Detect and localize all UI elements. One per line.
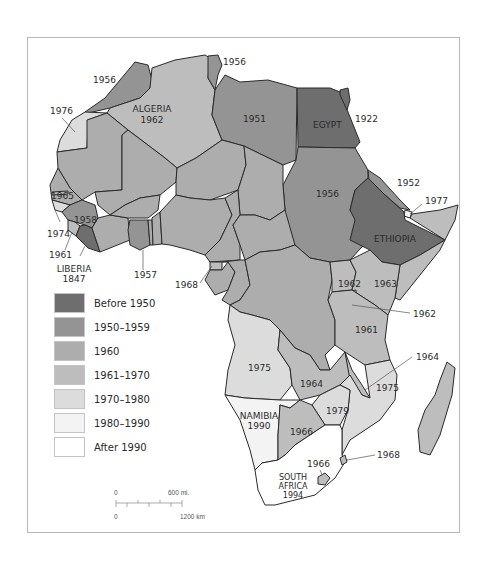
- legend-label: After 1990: [94, 442, 147, 453]
- label-zimbabwe: 1979: [326, 406, 349, 416]
- label-guinea: 1958: [74, 215, 97, 225]
- legend-label: 1950–1959: [94, 322, 150, 333]
- label-kenya: 1963: [374, 279, 397, 289]
- legend-item: After 1990: [54, 435, 155, 459]
- label-guinea-bissau: 1974: [47, 229, 70, 239]
- legend: Before 1950 1950–1959 1960 1961–1970 197…: [54, 291, 155, 459]
- label-mozambique: 1975: [376, 383, 399, 393]
- label-malawi: 1964: [416, 352, 439, 362]
- legend-label: 1961–1970: [94, 370, 150, 381]
- region-madagascar: [418, 362, 455, 455]
- label-uganda: 1962: [338, 279, 361, 289]
- label-south-africa-year: 1994: [283, 491, 303, 500]
- region-ghana: [128, 220, 150, 250]
- leader-liberia: [80, 246, 85, 256]
- label-egypt-name: EGYPT: [313, 120, 342, 130]
- legend-item: 1980–1990: [54, 411, 155, 435]
- label-eq-guinea: 1968: [175, 280, 198, 290]
- leader-swaziland: [347, 455, 375, 460]
- label-eritrea: 1952: [397, 178, 420, 188]
- legend-label: 1980–1990: [94, 418, 150, 429]
- label-sudan: 1956: [316, 189, 339, 199]
- legend-swatch: [54, 317, 85, 337]
- label-namibia-year: 1990: [248, 421, 271, 431]
- legend-swatch: [54, 293, 85, 313]
- scale-mi-zero: 0: [114, 489, 118, 496]
- legend-label: 1970–1980: [94, 394, 150, 405]
- label-morocco: 1956: [93, 75, 116, 85]
- legend-swatch: [54, 437, 85, 457]
- label-sierra-leone: 1961: [49, 250, 72, 260]
- label-egypt-year: 1922: [355, 114, 378, 124]
- label-libya: 1951: [243, 114, 266, 124]
- scale-km-zero: 0: [114, 513, 118, 520]
- legend-item: 1961–1970: [54, 363, 155, 387]
- region-egypt: [297, 88, 360, 148]
- label-algeria-name: ALGERIA: [133, 104, 173, 114]
- label-botswana: 1966: [290, 427, 313, 437]
- label-ghana: 1957: [134, 270, 157, 280]
- label-south-africa-name2: AFRICA: [278, 482, 308, 491]
- label-gambia: 1965: [51, 191, 74, 201]
- label-tunisia: 1956: [223, 57, 246, 67]
- legend-label: Before 1950: [94, 298, 155, 309]
- label-algeria-year: 1962: [141, 115, 164, 125]
- region-ivory-coast: [92, 215, 130, 252]
- legend-item: 1950–1959: [54, 315, 155, 339]
- label-tanzania: 1961: [355, 325, 378, 335]
- legend-swatch: [54, 341, 85, 361]
- label-lesotho: 1966: [307, 459, 330, 469]
- label-western-sahara: 1976: [50, 106, 73, 116]
- label-liberia-name: LIBERIA: [57, 264, 92, 274]
- label-namibia-name: NAMIBIA: [240, 411, 279, 421]
- label-angola: 1975: [248, 363, 271, 373]
- legend-item: 1960: [54, 339, 155, 363]
- legend-item: 1970–1980: [54, 387, 155, 411]
- legend-swatch: [54, 413, 85, 433]
- legend-label: 1960: [94, 346, 119, 357]
- label-djibouti: 1977: [425, 196, 448, 206]
- legend-swatch: [54, 389, 85, 409]
- label-ethiopia-name: ETHIOPIA: [374, 234, 417, 244]
- label-zambia: 1964: [300, 379, 323, 389]
- scale-mi-label: 600 mi.: [168, 489, 189, 496]
- label-south-africa-name1: SOUTH: [279, 473, 307, 482]
- legend-swatch: [54, 365, 85, 385]
- scale-km-label: 1200 km: [180, 513, 205, 520]
- scale-bar: [116, 500, 182, 507]
- africa-map: 1956 1956 ALGERIA 1962 1951 EGYPT 1922 1…: [0, 0, 503, 562]
- label-liberia-year: 1847: [63, 274, 86, 284]
- legend-item: Before 1950: [54, 291, 155, 315]
- leader-guinea-bissau: [55, 210, 60, 222]
- label-rwanda-burundi: 1962: [413, 309, 436, 319]
- label-swaziland: 1968: [377, 450, 400, 460]
